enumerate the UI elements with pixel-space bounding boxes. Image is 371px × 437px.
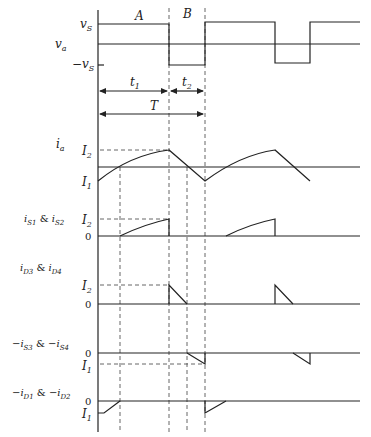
svg-text:0: 0	[85, 299, 91, 310]
svg-text:I2: I2	[81, 213, 92, 229]
region-b-label: B	[182, 7, 192, 21]
svg-text:B: B	[182, 7, 192, 21]
dashed-guides	[100, 8, 205, 432]
id12-waveform-1	[98, 401, 120, 413]
svg-text:ia: ia	[56, 137, 65, 153]
region-a-label: A	[134, 9, 144, 23]
svg-text:0: 0	[85, 396, 91, 407]
svg-text:iD3 & iD4: iD3 & iD4	[20, 262, 62, 276]
svg-text:A: A	[134, 9, 144, 23]
svg-text:−vS: −vS	[72, 57, 95, 73]
svg-text:t2: t2	[182, 75, 192, 91]
svg-text:−iS3 & −iS4: −iS3 & −iS4	[12, 338, 69, 352]
id-waveform-1	[169, 285, 187, 304]
svg-text:vS: vS	[80, 17, 93, 33]
svg-text:t1: t1	[130, 75, 140, 91]
svg-text:T: T	[150, 99, 159, 113]
is34-waveform-2	[293, 353, 310, 364]
waveform-svg: A B vS va −vS t1 t2 T ia I2 I1 iS1 & iS2…	[0, 0, 371, 437]
is34-waveform-1	[187, 353, 205, 364]
svg-text:I1: I1	[81, 175, 92, 191]
svg-text:iS1 & iS2: iS1 & iS2	[24, 213, 65, 227]
svg-text:I1: I1	[81, 359, 92, 375]
svg-text:I1: I1	[81, 407, 92, 423]
svg-text:0: 0	[85, 231, 91, 242]
svg-text:−iD1 & −iD2: −iD1 & −iD2	[12, 387, 71, 401]
ia-waveform	[98, 150, 310, 181]
is-waveform-2	[226, 219, 275, 236]
id12-waveform-2	[205, 401, 226, 413]
id-waveform-2	[275, 285, 293, 304]
waveform-diagram: A B vS va −vS t1 t2 T ia I2 I1 iS1 & iS2…	[0, 0, 371, 437]
svg-text:0: 0	[85, 348, 91, 359]
svg-text:I2: I2	[81, 144, 92, 160]
svg-text:I2: I2	[81, 279, 92, 295]
svg-text:va: va	[55, 37, 67, 53]
is-waveform-1	[120, 219, 169, 236]
